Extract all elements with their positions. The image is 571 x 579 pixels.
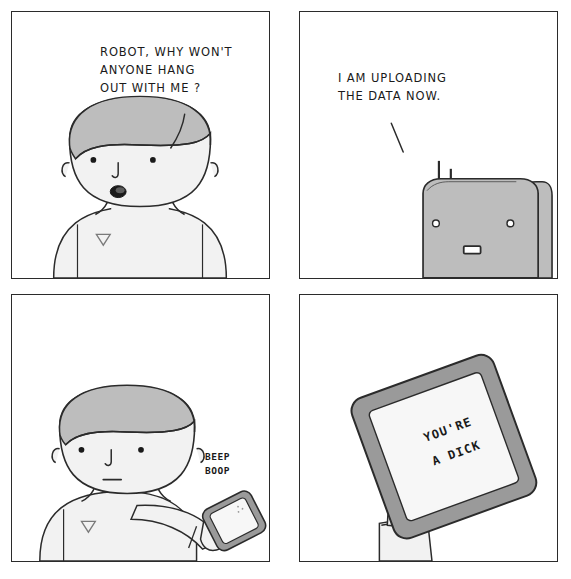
comic-panel-2: I AM UPLOADING THE DATA NOW. — [299, 11, 558, 279]
comic-panel-4: YOU'RE A DICK — [299, 294, 558, 562]
man-mouth-highlight — [116, 187, 125, 193]
robot-mouth — [464, 246, 481, 253]
man-eye-left — [79, 447, 85, 453]
robot-figure — [423, 161, 552, 278]
man-eye-right — [138, 447, 144, 453]
speech-tail-2 — [391, 123, 403, 152]
man-ear-right — [210, 163, 217, 177]
man-torso — [54, 207, 227, 278]
man-ear-right — [197, 449, 204, 463]
robot-eye-right — [507, 220, 514, 227]
man-eye-right — [150, 157, 156, 163]
panel-2-dialogue: I AM UPLOADING THE DATA NOW. — [338, 69, 447, 105]
man-ear-left — [62, 163, 69, 177]
man-ear-left — [52, 449, 59, 463]
man-figure — [54, 96, 227, 278]
panel-3-artwork — [12, 295, 269, 561]
comic-strip: ROBOT, WHY WON'T ANYONE HANG OUT WITH ME… — [0, 0, 571, 579]
comic-panel-3: BEEP BOOP — [11, 294, 270, 562]
panel-2-artwork — [300, 12, 557, 278]
robot-head — [423, 179, 538, 278]
man-eye-left — [90, 157, 96, 163]
comic-panel-1: ROBOT, WHY WON'T ANYONE HANG OUT WITH ME… — [11, 11, 270, 279]
panel-1-dialogue: ROBOT, WHY WON'T ANYONE HANG OUT WITH ME… — [100, 43, 232, 97]
panel-3-beep-boop-text: BEEP BOOP — [205, 450, 230, 478]
panel-grid: ROBOT, WHY WON'T ANYONE HANG OUT WITH ME… — [0, 0, 571, 579]
robot-eye-left — [433, 220, 440, 227]
man-figure-with-tablet — [40, 385, 228, 561]
